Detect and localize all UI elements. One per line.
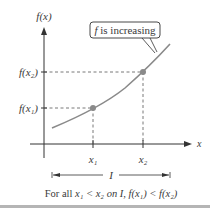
callout-text: is increasing (98, 24, 157, 36)
increasing-function-diagram: f is increasing f(x) x f(x₂) f(x₁) x₁ x₂… (0, 0, 210, 210)
y-tick-label-fx2: f(x₂) (19, 66, 38, 79)
caption: For all x₁ < x₂ on I, f(x₁) < f(x₂) (45, 188, 178, 200)
y-tick-label-fx1: f(x₁) (19, 102, 38, 115)
point-x1 (90, 105, 96, 111)
arrow-right-icon (162, 173, 169, 177)
x-axis (30, 141, 192, 147)
point-x2 (140, 69, 146, 75)
caption-prefix: For all (45, 188, 75, 199)
arrow-right-icon (184, 141, 192, 147)
x-tick-label-x2: x₂ (138, 153, 148, 165)
x-axis-label: x (196, 138, 202, 149)
bottom-divider (0, 205, 210, 208)
caption-math: x₁ < x₂ on I, f(x₁) < f(x₂) (74, 188, 178, 200)
interval-label: I (108, 169, 114, 181)
y-axis (41, 27, 47, 158)
function-curve (52, 44, 170, 128)
arrow-left-icon (53, 173, 60, 177)
callout: f is increasing (90, 22, 160, 53)
svg-text:f is increasing: f is increasing (94, 24, 156, 36)
y-axis-label: f(x) (36, 10, 52, 23)
arrow-up-icon (41, 27, 47, 35)
x-tick-label-x1: x₁ (88, 153, 98, 165)
